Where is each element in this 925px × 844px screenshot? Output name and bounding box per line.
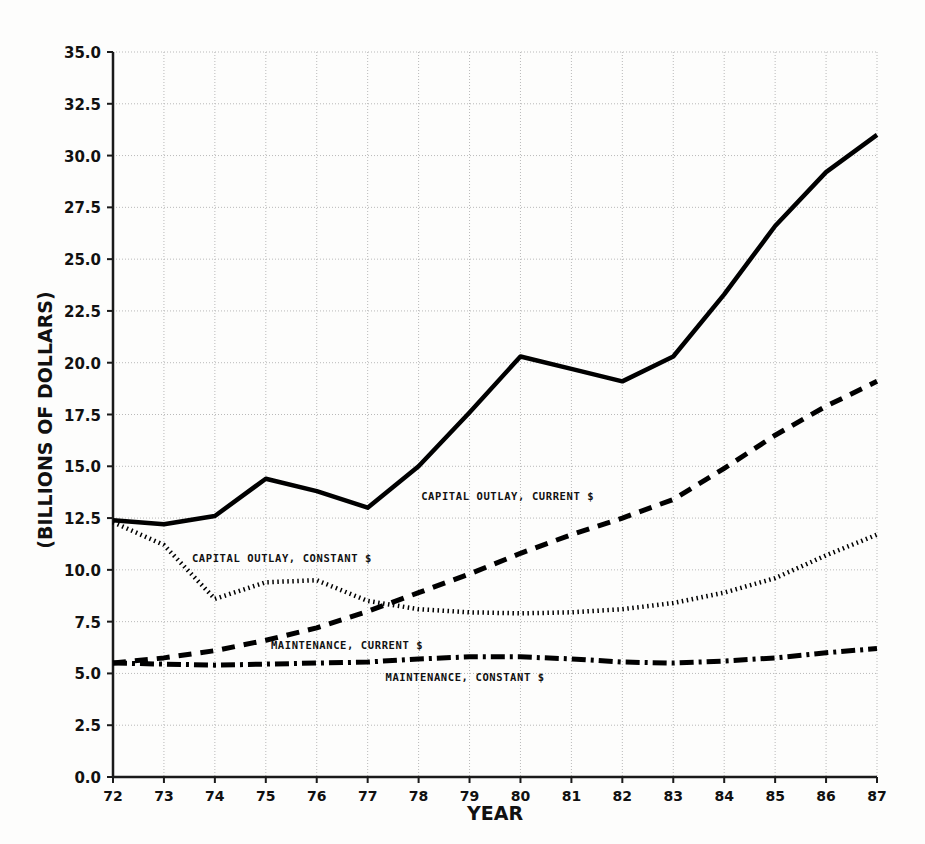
x-tick-label: 72 <box>103 788 122 804</box>
x-tick-label: 84 <box>714 788 734 804</box>
y-tick-label: 12.5 <box>64 510 101 528</box>
y-axis-title: (BILLIONS OF DOLLARS) <box>34 291 56 548</box>
chart-page: 0.02.55.07.510.012.515.017.520.022.525.0… <box>0 0 925 844</box>
y-tick-label: 25.0 <box>64 251 101 269</box>
y-tick-label: 27.5 <box>64 199 101 217</box>
y-tick-label: 2.5 <box>74 717 101 735</box>
x-tick-label: 81 <box>562 788 581 804</box>
series-label: MAINTENANCE, CONSTANT $ <box>385 671 544 683</box>
x-tick-label: 74 <box>205 788 225 804</box>
y-tick-label: 22.5 <box>64 303 101 321</box>
line-chart-figure: 0.02.55.07.510.012.515.017.520.022.525.0… <box>0 0 925 844</box>
y-tick-label: 20.0 <box>64 355 101 373</box>
data-series-lines <box>113 135 877 665</box>
series-label: MAINTENANCE, CURRENT $ <box>271 639 423 651</box>
y-tick-labels: 0.02.55.07.510.012.515.017.520.022.525.0… <box>64 44 101 787</box>
x-tick-label: 77 <box>358 788 377 804</box>
x-axis-title: YEAR <box>466 802 523 824</box>
x-tick-label: 78 <box>409 788 428 804</box>
y-tick-label: 35.0 <box>64 44 101 62</box>
y-tick-label: 5.0 <box>74 665 101 683</box>
y-tick-label: 17.5 <box>64 407 101 425</box>
series-line <box>113 381 877 663</box>
x-tick-label: 83 <box>664 788 683 804</box>
x-tick-label: 73 <box>154 788 173 804</box>
x-tick-label: 82 <box>613 788 632 804</box>
series-label: CAPITAL OUTLAY, CURRENT $ <box>421 490 594 502</box>
series-line <box>113 522 877 613</box>
x-tick-label: 87 <box>867 788 886 804</box>
y-tick-label: 0.0 <box>74 769 101 787</box>
x-tick-label: 76 <box>307 788 326 804</box>
series-label: CAPITAL OUTLAY, CONSTANT $ <box>192 552 372 564</box>
y-tick-label: 15.0 <box>64 458 101 476</box>
x-tick-label: 86 <box>816 788 835 804</box>
x-tick-label: 75 <box>256 788 275 804</box>
gridlines <box>113 52 877 777</box>
y-tick-label: 30.0 <box>64 148 101 166</box>
x-tick-label: 85 <box>765 788 784 804</box>
y-tick-label: 7.5 <box>74 614 101 632</box>
series-inline-labels: CAPITAL OUTLAY, CURRENT $CAPITAL OUTLAY,… <box>192 490 594 682</box>
series-line <box>113 649 877 666</box>
y-tick-label: 32.5 <box>64 96 101 114</box>
chart-svg: 0.02.55.07.510.012.515.017.520.022.525.0… <box>0 0 925 844</box>
y-tick-label: 10.0 <box>64 562 101 580</box>
